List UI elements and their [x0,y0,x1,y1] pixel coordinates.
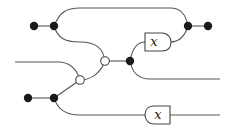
black-node [50,94,58,102]
black-node [184,22,192,30]
black-node [126,57,134,65]
wire-middle-output [130,61,220,79]
gate-bottom-label: x [154,107,162,122]
black-node [24,94,32,102]
gate-bottom: x [145,106,170,124]
black-node [204,22,212,30]
white-node [76,76,85,85]
black-node [50,22,58,30]
string-diagram: x x [0,0,234,134]
white-node [101,57,110,66]
wire-bottom-branch [54,98,145,115]
wire-upper-branch [54,26,105,61]
black-node [30,22,38,30]
gate-top: x [145,33,171,51]
wire-top-arc [54,8,188,26]
gate-top-label: x [150,34,158,49]
wire-left-input [15,62,80,80]
